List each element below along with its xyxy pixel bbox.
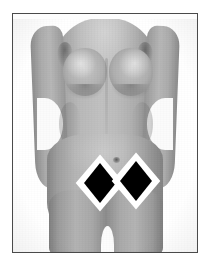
diamond-marker-right[interactable]	[112, 153, 160, 209]
inframammary-fold-left	[65, 84, 105, 100]
inframammary-fold-right	[111, 84, 151, 100]
photograph	[13, 14, 197, 252]
plate-top-margin	[13, 14, 197, 19]
photo-frame	[12, 13, 198, 253]
subject-body	[13, 14, 197, 252]
figure-root	[0, 0, 210, 273]
